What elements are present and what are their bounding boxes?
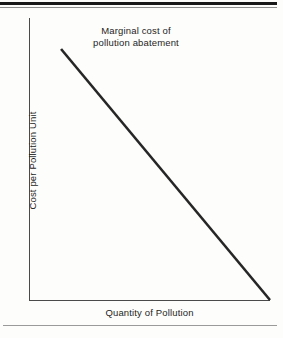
chart-title: Marginal cost of pollution abatement bbox=[62, 25, 210, 48]
figure-container: Marginal cost of pollution abatement Cos… bbox=[0, 0, 283, 338]
plot-area: Marginal cost of pollution abatement Cos… bbox=[0, 0, 283, 338]
marginal-cost-curve bbox=[61, 49, 270, 300]
y-axis-label: Cost per Pollution Unit bbox=[27, 81, 38, 241]
x-axis-label: Quantity of Pollution bbox=[29, 307, 270, 318]
curve-layer bbox=[0, 0, 283, 338]
page-rule-bottom bbox=[3, 325, 277, 326]
